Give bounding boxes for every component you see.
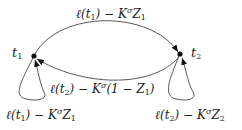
edge-label-t1-self-loop: ℓ(t1) − KσZ1 xyxy=(6,108,76,123)
node-t1-sub: 1 xyxy=(17,52,22,61)
node-t1-label: t1 xyxy=(12,46,22,61)
node-t2-sub: 2 xyxy=(196,52,201,61)
node-t2-dot xyxy=(177,51,182,56)
edge-t1-self-loop xyxy=(19,58,45,100)
node-t2-label: t2 xyxy=(191,46,201,61)
node-t1-dot xyxy=(31,53,36,58)
edge-t2-self-loop xyxy=(168,56,194,100)
edge-label-t2-to-t1: ℓ(t2) − Kσ(1 − Z1) xyxy=(50,82,155,97)
edge-label-t1-to-t2: ℓ(t1) − KσZ1 xyxy=(76,7,146,22)
edge-t1-to-t2 xyxy=(35,21,178,54)
edge-label-t2-self-loop: ℓ(t2) − KσZ2 xyxy=(155,108,225,123)
edge-t2-to-t1 xyxy=(37,57,179,80)
